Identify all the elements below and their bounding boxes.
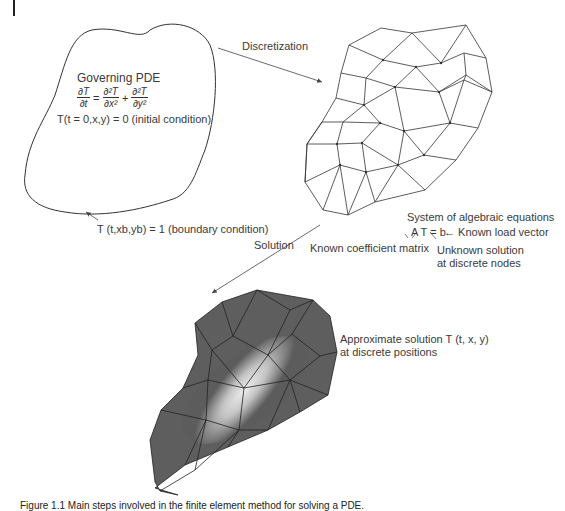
algebraic-system-title: System of algebraic equations xyxy=(407,211,554,224)
pde-term-x: ∂²T ∂x² xyxy=(103,86,119,109)
approx-solution-label-2: at discrete positions xyxy=(340,346,437,359)
unknown-solution-label-1: Unknown solution xyxy=(437,244,524,257)
finite-element-mesh xyxy=(305,25,492,215)
boundary-condition: T (t,xb,yb) = 1 (boundary condition) xyxy=(97,223,268,236)
discretization-label: Discretization xyxy=(242,40,308,53)
algebraic-equation: A T = b xyxy=(411,226,446,239)
figure-caption: Figure 1.1 Main steps involved in the fi… xyxy=(20,500,364,511)
governing-pde-title: Governing PDE xyxy=(77,72,160,85)
equals-sign: = xyxy=(93,92,99,104)
unknown-solution-label-2: at discrete nodes xyxy=(437,257,521,270)
solution-surface xyxy=(150,290,337,495)
load-vector-label: ← Known load vector xyxy=(444,226,549,239)
plus-sign: + xyxy=(122,92,128,104)
approx-solution-label-1: Approximate solution T (t, x, y) xyxy=(340,333,489,346)
solution-label: Solution xyxy=(254,239,294,252)
pde-term-y: ∂²T ∂y² xyxy=(131,86,147,109)
pde-lhs: ∂T ∂t xyxy=(77,86,90,109)
initial-condition: T(t = 0,x,y) = 0 (initial condition) xyxy=(57,113,211,126)
coefficient-matrix-label: Known coefficient matrix xyxy=(310,242,429,255)
pde-equation: ∂T ∂t = ∂²T ∂x² + ∂²T ∂y² xyxy=(77,86,148,109)
